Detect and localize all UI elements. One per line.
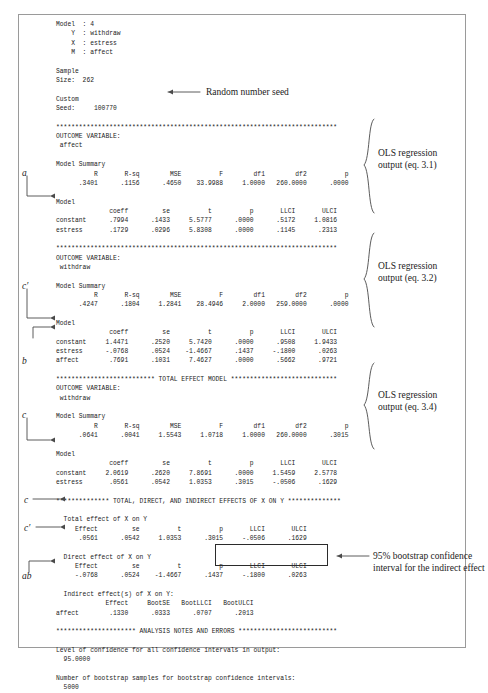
output-line: estress -.0768 .0524 -1.4667 .1437 -.180… [56, 347, 376, 356]
annotation-ols-eq31-line2: output (eq. 3.1) [378, 160, 437, 172]
output-line: withdraw [56, 263, 376, 272]
output-line: Y : withdraw [56, 29, 376, 38]
output-blank-line [56, 618, 376, 627]
output-line: coeff se t p LLCI ULCI [56, 207, 376, 216]
output-line: Model : 4 [56, 20, 376, 29]
path-label-c-prime-direct: c′ [24, 523, 30, 533]
output-line: Model [56, 198, 376, 207]
output-line: R R-sq MSE F df1 df2 p [56, 422, 376, 431]
output-line: Model [56, 450, 376, 459]
output-line: coeff se t p LLCI ULCI [56, 459, 376, 468]
output-line: Number of bootstrap samples for bootstra… [56, 674, 376, 683]
output-line: Model [56, 319, 376, 328]
output-line: -.0768 .0524 -1.4667 .1437 -.1800 .0263 [56, 571, 376, 580]
output-line: ****************************************… [56, 123, 376, 132]
output-line: .0641 .0041 1.5543 1.0718 1.0000 260.000… [56, 431, 376, 440]
statistical-output-text: Model : 4 Y : withdraw X : estress M : a… [56, 20, 376, 693]
annotation-ols-eq31-line1: OLS regression [378, 148, 437, 160]
path-label-ab: ab [22, 571, 32, 581]
path-label-c: c [22, 410, 26, 420]
output-blank-line [56, 310, 376, 319]
output-blank-line [56, 113, 376, 122]
output-line: .4247 .1804 1.2841 28.4946 2.0000 259.00… [56, 300, 376, 309]
output-line: affect [56, 141, 376, 150]
output-line: R R-sq MSE F df1 df2 p [56, 291, 376, 300]
output-blank-line [56, 403, 376, 412]
output-blank-line [56, 188, 376, 197]
output-line: Total effect of X on Y [56, 515, 376, 524]
annotation-random-number-seed: Random number seed [206, 87, 289, 99]
output-line: constant 1.4471 .2520 5.7420 .0000 .9508… [56, 338, 376, 347]
output-line: .0561 .0542 1.0353 .3015 -.0506 .1629 [56, 534, 376, 543]
output-line: affect .7691 .1031 7.4627 .0000 .5662 .9… [56, 356, 376, 365]
output-blank-line [56, 581, 376, 590]
output-line: Indirect effect(s) of X on Y: [56, 590, 376, 599]
output-line: Seed: 100770 [56, 104, 376, 113]
annotation-ols-eq31: OLS regression output (eq. 3.1) [378, 148, 437, 171]
output-line: Sample [56, 67, 376, 76]
bootstrap-ci-highlight-box [215, 544, 328, 566]
output-line: Level of confidence for all confidence i… [56, 646, 376, 655]
output-line: .3401 .1156 .4650 33.9988 1.0000 260.000… [56, 179, 376, 188]
annotation-bootstrap-ci: 95% bootstrap confidence interval for th… [373, 551, 485, 574]
output-blank-line [56, 440, 376, 449]
output-line: Size: 262 [56, 76, 376, 85]
output-line: Model Summary [56, 282, 376, 291]
output-line: ************** TOTAL, DIRECT, AND INDIRE… [56, 497, 376, 506]
annotation-ols-eq32: OLS regression output (eq. 3.2) [378, 261, 437, 284]
output-line: X : estress [56, 39, 376, 48]
annotation-bootstrap-ci-line2: interval for the indirect effect [373, 563, 485, 575]
annotation-ols-eq34-line2: output (eq. 3.4) [378, 402, 437, 414]
output-line: ********************* ANALYSIS NOTES AND… [56, 627, 376, 636]
annotation-bootstrap-ci-line1: 95% bootstrap confidence [373, 551, 485, 563]
output-line: 5000 [56, 683, 376, 692]
output-line: OUTCOME VARIABLE: [56, 254, 376, 263]
output-line: OUTCOME VARIABLE: [56, 384, 376, 393]
annotation-ols-eq32-line1: OLS regression [378, 261, 437, 273]
output-line: affect .1330 .0333 .0707 .2013 [56, 609, 376, 618]
output-line: constant 2.0619 .2620 7.8691 .0000 1.545… [56, 469, 376, 478]
path-label-c-total: c [24, 495, 28, 505]
output-line: 95.0000 [56, 655, 376, 664]
output-blank-line [56, 235, 376, 244]
output-line: Model Summary [56, 412, 376, 421]
output-blank-line [56, 487, 376, 496]
output-blank-line [56, 366, 376, 375]
output-line: constant .7994 .1433 5.5777 .0000 .5172 … [56, 216, 376, 225]
output-line: ****************************************… [56, 244, 376, 253]
output-line: OUTCOME VARIABLE: [56, 132, 376, 141]
output-line: estress .1729 .0296 5.8308 .0000 .1145 .… [56, 226, 376, 235]
output-blank-line [56, 506, 376, 515]
output-blank-line [56, 665, 376, 674]
path-label-c-prime-upper: c′ [22, 281, 28, 291]
output-line: ************************** TOTAL EFFECT … [56, 375, 376, 384]
output-line: estress .0561 .0542 1.0353 .3015 -.0506 … [56, 478, 376, 487]
output-blank-line [56, 272, 376, 281]
output-line: coeff se t p LLCI ULCI [56, 328, 376, 337]
path-label-a: a [22, 168, 27, 178]
output-line: withdraw [56, 394, 376, 403]
output-line: Effect BootSE BootLLCI BootULCI [56, 599, 376, 608]
output-blank-line [56, 637, 376, 646]
output-blank-line [56, 57, 376, 66]
output-blank-line [56, 151, 376, 160]
annotation-ols-eq32-line2: output (eq. 3.2) [378, 273, 437, 285]
annotation-ols-eq34-line1: OLS regression [378, 390, 437, 402]
output-line: R R-sq MSE F df1 df2 p [56, 170, 376, 179]
output-line: M : affect [56, 48, 376, 57]
output-line: Model Summary [56, 160, 376, 169]
annotation-ols-eq34: OLS regression output (eq. 3.4) [378, 390, 437, 413]
output-line: Effect se t p LLCI ULCI [56, 525, 376, 534]
path-label-b: b [22, 356, 27, 366]
